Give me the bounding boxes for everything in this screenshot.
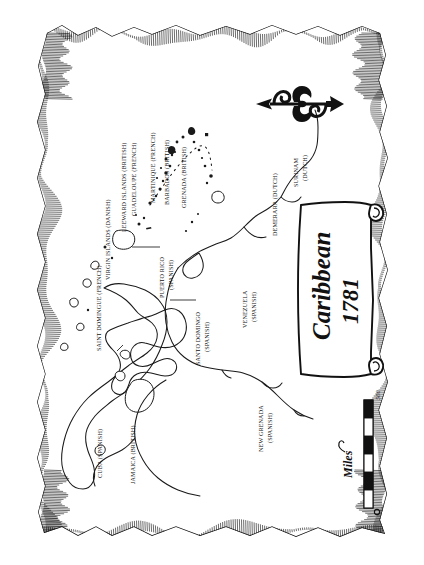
label-saint-domingue: SAINT DOMINGUE (FRENCH)	[96, 265, 103, 351]
label-barbados: BARBADOS (BRITISH)	[164, 140, 171, 205]
island-dominica	[182, 136, 185, 139]
cartouche-year: 1781	[338, 278, 363, 324]
island-grenada	[209, 174, 213, 178]
label-puerto-rico-line1: PUERTO RICO	[159, 257, 165, 298]
label-virgin-islands: VIRGIN ISLANDS (DANISH)	[105, 199, 112, 280]
scale-segment-5	[364, 472, 373, 490]
label-santo-domingo-line2: (SPANISH)	[204, 322, 211, 352]
label-new-grenada-line2: (SPANISH)	[267, 413, 274, 443]
scale-segment-2	[364, 418, 373, 436]
label-guadeloupe: GUADELOUPE (FRENCH)	[131, 143, 138, 216]
label-jamaica: JAMAICA (BRITISH)	[130, 425, 137, 484]
scale-segment-6	[364, 490, 373, 508]
island-hispaniola-spit	[115, 371, 125, 381]
label-surinam-line2: (DUTCH)	[302, 155, 309, 181]
label-venezuela-line1: VENEZUELA	[242, 290, 248, 328]
label-leeward-islands: LEEWARD ISLANDS (BRITISH)	[121, 143, 128, 232]
scale-max-label: 500	[374, 390, 381, 400]
label-demerara: DEMERARA (DUTCH)	[272, 173, 279, 236]
scale-segment-1	[364, 400, 373, 418]
map-canvas: SAINT DOMINGUE (FRENCH) VIRGIN ISLANDS (…	[0, 0, 424, 565]
label-surinam-line1: SURINAM	[293, 157, 299, 187]
island-trinidad	[212, 191, 224, 203]
scale-bar-caption: Miles	[341, 450, 355, 479]
island-barbados	[205, 133, 208, 136]
label-venezuela-line2: (SPANISH)	[251, 292, 258, 322]
label-santo-domingo-line1: SANTO DOMINGO	[195, 311, 201, 365]
label-puerto-rico-line2: (SPANISH)	[168, 260, 175, 290]
label-grenada: GRENADA (BRITISH)	[181, 147, 188, 208]
title-cartouche: Caribbean 1781	[298, 202, 383, 377]
scale-segment-3	[364, 436, 373, 454]
label-new-grenada-line1: NEW GRENADA	[258, 405, 264, 452]
label-cuba: CUBA (SPANISH)	[97, 429, 104, 478]
cartouche-title: Caribbean	[308, 232, 335, 340]
label-martinique: MARTINIQUE (FRENCH)	[150, 132, 157, 203]
scale-segment-4	[364, 454, 373, 472]
